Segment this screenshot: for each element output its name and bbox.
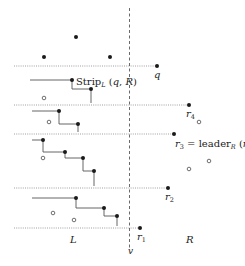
points (41, 35, 211, 230)
staircase (32, 111, 78, 132)
hollow-point (197, 120, 201, 124)
strip-annotation: StripL (q, R) (76, 76, 137, 89)
label-r2: r2 (165, 191, 174, 204)
leader-annotation: r3 = leaderR (r4) (175, 138, 245, 151)
filled-point (74, 196, 78, 200)
point-r2 (166, 186, 170, 190)
region-label-L: L (69, 234, 77, 245)
filled-point (76, 122, 80, 126)
filled-point (41, 138, 45, 142)
divider-label-v: v (128, 246, 133, 256)
filled-point (70, 78, 74, 82)
point-r4 (187, 103, 191, 107)
filled-point (63, 150, 67, 154)
filled-point (57, 109, 61, 113)
staircase (32, 140, 94, 186)
hollow-point (42, 96, 46, 100)
region-label-R: R (185, 234, 194, 245)
diagram-canvas: qr4r2r1LRvStripL (q, R)r3 = leaderR (r4) (0, 0, 245, 266)
hollow-point (41, 156, 45, 160)
hollow-point (207, 159, 211, 163)
point-r3 (172, 132, 176, 136)
staircases (30, 80, 117, 226)
filled-point (74, 35, 78, 39)
label-q: q (154, 69, 160, 80)
filled-point (108, 55, 112, 59)
filled-point (81, 156, 85, 160)
hollow-point (72, 218, 76, 222)
filled-point (42, 55, 46, 59)
hollow-point (51, 211, 55, 215)
filled-point (115, 214, 119, 218)
label-r4: r4 (186, 108, 195, 121)
point-q (155, 64, 159, 68)
strip-boundary-lines (14, 66, 189, 228)
hollow-point (47, 120, 51, 124)
filled-point (102, 206, 106, 210)
label-r1: r1 (137, 231, 146, 244)
filled-point (92, 169, 96, 173)
filled-point (89, 87, 93, 91)
hollow-point (187, 167, 191, 171)
point-r1 (138, 226, 142, 230)
